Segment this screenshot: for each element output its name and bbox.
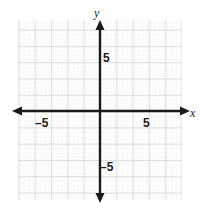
x-axis-name: x (190, 107, 195, 119)
x-axis-left-arrowhead (12, 107, 22, 116)
y-axis-tick-label-5: 5 (103, 52, 110, 64)
x-axis-tick-label-negative-5: –5 (35, 117, 48, 129)
coordinate-plane-svg (0, 0, 201, 210)
coordinate-plane-figure: 5 –5 –5 5 x y (0, 0, 201, 210)
x-axis-tick-label-5: 5 (143, 117, 150, 129)
y-axis-name: y (94, 7, 99, 19)
y-axis-tick-label-negative-5: –5 (100, 161, 113, 173)
x-axis-right-arrowhead (180, 107, 190, 116)
